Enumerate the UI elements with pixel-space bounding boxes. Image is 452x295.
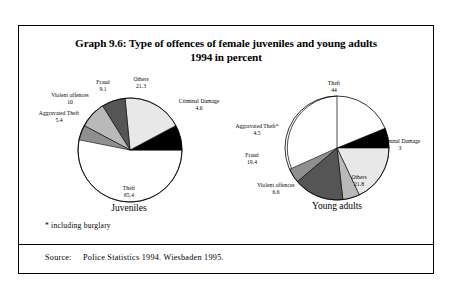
figure-frame: Graph 9.6: Type of offences of female ju…	[18, 25, 434, 274]
pie-chart-young-adults: Theft 44 Aggravated Theft* 4.5 Fraud 19.…	[226, 81, 436, 231]
caption-young-adults: Young adults	[257, 201, 417, 211]
footnote-text: * including burglary	[45, 221, 111, 230]
source-value: Police Statistics 1994. Wiesbaden 1995.	[83, 253, 224, 262]
label-violent-offences: Violent offences 6.6	[245, 182, 307, 195]
graph-figure: Graph 9.6: Type of offences of female ju…	[0, 0, 452, 295]
title-line-1: Graph 9.6: Type of offences of female ju…	[75, 37, 377, 49]
label-criminal-damage: Criminal Damage 3	[367, 138, 433, 151]
label-others: Others 21.3	[121, 76, 161, 89]
label-others: Others 21.8	[339, 174, 379, 187]
label-violent-offences: Violent offences 10	[39, 92, 101, 105]
page-title: Graph 9.6: Type of offences of female ju…	[19, 37, 433, 64]
label-criminal-damage: Criminal Damage 4.6	[167, 98, 231, 111]
source-label: Source:	[45, 253, 72, 262]
source-line: Source: Police Statistics 1994. Wiesbade…	[45, 253, 224, 262]
label-aggravated-theft: Aggravated Theft 5.4	[27, 110, 91, 123]
label-aggravated-theft: Aggravated Theft* 4.5	[220, 123, 294, 136]
label-fraud: Fraud 19.4	[232, 152, 272, 165]
charts-area: Fraud 9.1 Others 21.3 Violent offences 1…	[19, 81, 433, 231]
label-fraud: Fraud 9.1	[83, 79, 123, 92]
caption-juveniles: Juveniles	[49, 203, 209, 213]
title-line-2: 1994 in percent	[19, 51, 433, 65]
pie-chart-juveniles: Fraud 9.1 Others 21.3 Violent offences 1…	[21, 81, 231, 231]
source-divider	[19, 244, 433, 245]
label-theft: Theft 65.4	[109, 185, 149, 198]
label-theft: Theft 44	[314, 80, 354, 93]
